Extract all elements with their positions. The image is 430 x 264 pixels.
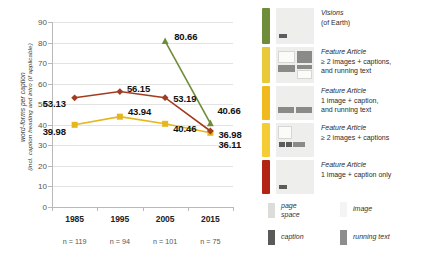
thumbnail-img-block [278, 51, 295, 63]
page-layout-thumbnail [276, 47, 314, 83]
data-point-label: 36.98 [218, 129, 241, 140]
data-point-label: 40.46 [173, 123, 196, 134]
legend-panel: Visions(of Earth)Feature Article≥ 2 imag… [262, 0, 430, 264]
key-label-line1: caption [281, 233, 304, 242]
thumbnail-cap-block [279, 142, 285, 147]
thumbnail-img-block [278, 126, 292, 140]
page-layout-thumbnail [276, 8, 314, 44]
key-label-running-text: running text [353, 233, 390, 242]
legend-entry-line-2: 1 image + caption, [321, 96, 378, 106]
y-tick-mark [48, 84, 52, 85]
data-point-label: 53.13 [43, 98, 66, 109]
key-swatch-page-space [268, 203, 275, 218]
key-label-image: image [353, 205, 372, 214]
key-swatch-caption [268, 230, 275, 245]
y-tick-mark [48, 63, 52, 64]
thumbnail-txt-block [297, 51, 312, 63]
legend-entry-line-1: Feature Article [321, 47, 391, 57]
y-tick-mark [48, 207, 52, 208]
key-label-caption: caption [281, 233, 304, 242]
data-point-marker [162, 121, 168, 127]
legend-entry[interactable]: Feature Article1 image + caption,and run… [262, 86, 378, 120]
legend-key-caption: caption [268, 230, 304, 245]
legend-entry[interactable]: Visions(of Earth) [262, 8, 350, 44]
chart-screenshot: word-forms per caption (incl. caption he… [0, 0, 430, 264]
data-point-label: 43.94 [128, 106, 151, 117]
series-line [165, 41, 210, 123]
thumbnail-cap-block [279, 185, 287, 189]
data-point-marker [162, 37, 169, 44]
legend-entry-line-2: 1 image + caption only [321, 170, 391, 180]
legend-entry-text: Feature Article≥ 2 images + captions [321, 123, 389, 142]
data-point-label: 39.98 [43, 126, 66, 137]
legend-entry[interactable]: Feature Article≥ 2 images + captions,and… [262, 47, 391, 83]
legend-entry-line-1: Feature Article [321, 123, 389, 133]
legend-entry-text: Visions(of Earth) [321, 8, 350, 27]
legend-entry-line-2: ≥ 2 images + captions [321, 133, 389, 143]
legend-entry-line-3: and running text [321, 105, 378, 115]
data-point-marker [72, 122, 78, 128]
page-layout-thumbnail [276, 86, 314, 120]
legend-color-swatch [262, 160, 270, 194]
y-tick-mark [48, 166, 52, 167]
legend-entry-line-1: Feature Article [321, 86, 378, 96]
legend-entry-text: Feature Article≥ 2 images + captions,and… [321, 47, 391, 76]
thumbnail-img-block [297, 70, 312, 79]
page-layout-thumbnail [276, 160, 314, 194]
y-tick-mark [48, 104, 52, 105]
key-label-line1: image [353, 205, 372, 214]
data-point-marker [117, 114, 123, 120]
legend-key-running-text: running text [340, 230, 390, 245]
key-swatch-running-text [340, 230, 347, 245]
key-label-line1: page [281, 202, 300, 211]
legend-color-swatch [262, 47, 270, 83]
thumbnail-txt-block [278, 65, 295, 72]
key-swatch-image [340, 202, 347, 217]
legend-entry-text: Feature Article1 image + caption only [321, 160, 391, 179]
data-point-label: 36.11 [218, 139, 241, 150]
data-point-label: 40.66 [217, 105, 240, 116]
legend-entry[interactable]: Feature Article1 image + caption only [262, 160, 391, 194]
legend-color-swatch [262, 123, 270, 157]
legend-key-page-space: pagespace [268, 202, 300, 220]
legend-entry-text: Feature Article1 image + caption,and run… [321, 86, 378, 115]
legend-key-image: image [340, 202, 372, 217]
data-point-label: 80.66 [174, 31, 197, 42]
key-label-page-space: pagespace [281, 202, 300, 220]
data-point-marker [116, 88, 123, 95]
thumbnail-txt-block [297, 65, 312, 69]
thumbnail-txt-block [293, 142, 304, 147]
y-tick-mark [48, 186, 52, 187]
data-point-marker [71, 94, 78, 101]
legend-entry-line-1: Feature Article [321, 160, 391, 170]
thumbnail-cap-block [286, 142, 292, 147]
legend-entry-line-2: (of Earth) [321, 18, 350, 28]
legend-entry-line-1: Visions [321, 8, 350, 18]
legend-entry-line-2: ≥ 2 images + captions, [321, 57, 391, 67]
page-layout-thumbnail [276, 123, 314, 157]
chart-panel: word-forms per caption (incl. caption he… [0, 0, 258, 264]
legend-entry[interactable]: Feature Article≥ 2 images + captions [262, 123, 389, 157]
thumbnail-txt-block [278, 107, 294, 113]
key-label-line1: running text [353, 233, 390, 242]
data-point-label: 53.19 [173, 93, 196, 104]
thumbnail-txt-block [296, 107, 312, 113]
thumbnail-cap-block [279, 34, 287, 38]
legend-entry-line-3: and running text [321, 66, 391, 76]
y-tick-mark [48, 125, 52, 126]
key-label-line2: space [281, 211, 300, 220]
data-point-label: 56.15 [127, 83, 150, 94]
y-tick-mark [48, 145, 52, 146]
legend-color-swatch [262, 86, 270, 120]
legend-color-swatch [262, 8, 270, 44]
y-tick-mark [48, 43, 52, 44]
y-tick-mark [48, 22, 52, 23]
